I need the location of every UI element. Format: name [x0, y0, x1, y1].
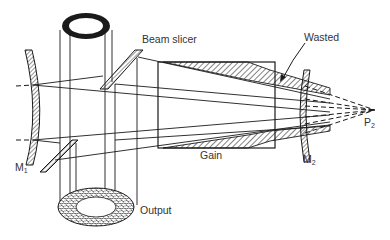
output-ring-bottom [58, 188, 134, 226]
mirror-m1 [25, 50, 40, 165]
label-output: Output [140, 205, 172, 216]
label-beam-slicer: Beam slicer [142, 34, 197, 45]
label-m2-sub: 2 [312, 159, 316, 166]
label-m1: M1 [15, 162, 28, 174]
output-ring-top [62, 13, 110, 39]
label-m2: M2 [303, 154, 316, 166]
label-m2-main: M [303, 153, 312, 165]
label-wasted: Wasted [304, 32, 339, 43]
label-m1-main: M [15, 161, 24, 173]
label-p2-main: P [364, 116, 371, 128]
label-m1-sub: 1 [24, 167, 28, 174]
beam-lines [33, 30, 330, 210]
wasted-pointer [280, 43, 305, 82]
beam-slicer-bottom [40, 140, 78, 172]
label-p2-sub: 2 [371, 122, 375, 129]
label-p2: P2 [364, 117, 375, 129]
label-gain: Gain [200, 150, 222, 161]
